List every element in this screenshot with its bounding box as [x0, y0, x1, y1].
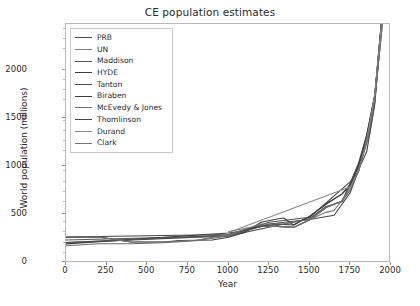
y-minor-tick-mark	[63, 221, 65, 222]
legend-color-swatch	[75, 143, 92, 144]
series-line	[229, 24, 383, 231]
legend-item[interactable]: Maddison	[75, 55, 168, 67]
y-minor-tick-mark	[63, 79, 65, 80]
legend-label: PRB	[97, 34, 112, 42]
legend-color-swatch	[75, 37, 92, 38]
legend-label: Maddison	[97, 57, 133, 65]
legend-color-swatch	[75, 84, 92, 85]
legend-label: Clark	[97, 139, 117, 147]
chart-legend[interactable]: PRBUNMaddisonHYDETantonBirabenMcEvedy & …	[70, 28, 173, 153]
y-minor-tick-mark	[63, 170, 65, 171]
y-minor-tick-mark	[63, 89, 65, 90]
y-minor-tick-mark	[63, 181, 65, 182]
y-axis-label: World population (millions)	[19, 48, 29, 248]
y-minor-tick-mark	[63, 48, 65, 49]
legend-item[interactable]: Clark	[75, 137, 168, 149]
y-minor-tick-mark	[63, 231, 65, 232]
y-minor-tick-mark	[63, 69, 65, 70]
legend-item[interactable]: Durand	[75, 126, 168, 138]
legend-label: Durand	[97, 128, 125, 136]
legend-label: Thomlinson	[97, 116, 141, 124]
x-tick-label: 2000	[360, 265, 420, 275]
legend-item[interactable]: UN	[75, 44, 168, 56]
legend-color-swatch	[75, 119, 92, 120]
legend-item[interactable]: Thomlinson	[75, 114, 168, 126]
y-minor-tick-mark	[63, 150, 65, 151]
legend-item[interactable]: PRB	[75, 32, 168, 44]
y-minor-tick-mark	[63, 99, 65, 100]
y-minor-tick-mark	[63, 130, 65, 131]
y-minor-tick-mark	[63, 38, 65, 39]
chart-title: CE population estimates	[0, 6, 420, 18]
legend-label: McEvedy & Jones	[97, 104, 162, 112]
y-minor-tick-mark	[63, 191, 65, 192]
y-minor-tick-mark	[63, 120, 65, 121]
legend-label: Tanton	[97, 81, 122, 89]
legend-label: HYDE	[97, 69, 118, 77]
series-line	[229, 24, 383, 232]
x-axis-label: Year	[65, 279, 390, 289]
y-minor-tick-mark	[63, 252, 65, 253]
y-minor-tick-mark	[63, 242, 65, 243]
legend-item[interactable]: HYDE	[75, 67, 168, 79]
y-minor-tick-mark	[63, 201, 65, 202]
chart-figure: CE population estimates 2000 1500 1000 5…	[0, 0, 420, 306]
legend-color-swatch	[75, 61, 92, 62]
legend-item[interactable]: Biraben	[75, 90, 168, 102]
legend-color-swatch	[75, 107, 92, 108]
legend-color-swatch	[75, 96, 92, 97]
y-tick-label: 0	[0, 256, 27, 266]
y-minor-tick-mark	[63, 28, 65, 29]
legend-item[interactable]: McEvedy & Jones	[75, 102, 168, 114]
legend-color-swatch	[75, 131, 92, 132]
legend-item[interactable]: Tanton	[75, 79, 168, 91]
y-minor-tick-mark	[63, 140, 65, 141]
legend-color-swatch	[75, 72, 92, 73]
legend-label: Biraben	[97, 92, 126, 100]
legend-label: UN	[97, 46, 108, 54]
legend-color-swatch	[75, 49, 92, 50]
